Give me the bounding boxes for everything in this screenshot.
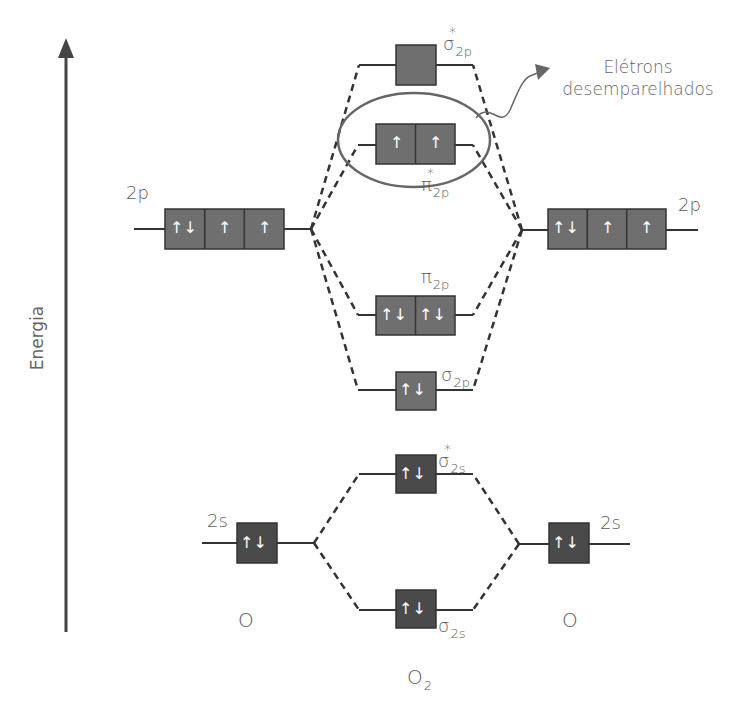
left-2p-label: 2p — [126, 184, 149, 202]
right-2p-box1-electrons: ↑↓ — [552, 220, 579, 236]
sigma-2s-label: σ2s — [438, 617, 465, 635]
left-2p-box1-electrons: ↑↓ — [170, 220, 197, 236]
pi-2p-label: π2p — [421, 268, 449, 286]
molecule-label: O2 — [407, 667, 432, 687]
pi-2p-box1-electrons: ↑↓ — [380, 307, 407, 323]
right-2p-label: 2p — [678, 196, 701, 214]
sigma-2s-electrons: ↑↓ — [399, 601, 426, 617]
left-2s-label: 2s — [207, 512, 228, 530]
annotation-line1: Elétrons — [548, 56, 728, 78]
sigma-2p-label: σ2p — [441, 366, 470, 384]
right-2s-label: 2s — [600, 514, 621, 532]
left-2p-box2-electrons: ↑ — [218, 220, 231, 236]
sigma-2s-star-label: σ*2s — [438, 452, 465, 470]
pi-2p-star-box1-electrons: ↑ — [390, 135, 403, 151]
pi-2p-star-box2-electrons: ↑ — [429, 135, 442, 151]
pi-2p-box2-electrons: ↑↓ — [419, 307, 446, 323]
pi-2p-star-label: π*2p — [421, 176, 449, 194]
sigma-2p-star-label: σ*2p — [443, 35, 472, 53]
left-2s-electrons: ↑↓ — [240, 535, 267, 551]
sigma-2p-electrons: ↑↓ — [399, 382, 426, 398]
right-2s-electrons: ↑↓ — [552, 535, 579, 551]
left-atom-label: O — [238, 610, 254, 630]
mo-diagram-graphics — [0, 0, 738, 722]
unpaired-electrons-annotation: Elétrons desemparelhados — [548, 56, 728, 100]
right-2p-box2-electrons: ↑ — [601, 220, 614, 236]
left-2p-box3-electrons: ↑ — [258, 220, 271, 236]
energy-axis-label: Energia — [27, 303, 47, 373]
annotation-line2: desemparelhados — [548, 78, 728, 100]
sigma-2s-star-electrons: ↑↓ — [399, 466, 426, 482]
pi-2p-level — [358, 296, 473, 335]
right-2p-box3-electrons: ↑ — [640, 220, 653, 236]
right-atom-label: O — [562, 610, 578, 630]
pi-2p-star-level — [358, 124, 473, 164]
energy-axis-arrow — [58, 38, 74, 632]
